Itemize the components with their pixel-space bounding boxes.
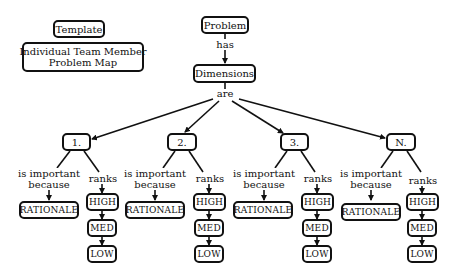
ranks-label: ranks — [196, 173, 224, 184]
problem-node: Problem — [201, 16, 249, 34]
because-line2: because — [233, 179, 295, 190]
template-box: Template — [53, 20, 105, 38]
dimension-node-1: 1. — [62, 133, 91, 151]
are-link-label: are — [217, 88, 234, 99]
dimension-node-n: N. — [386, 133, 416, 151]
because-line1: is important — [18, 168, 80, 179]
important-because-label: is important because — [340, 168, 402, 190]
important-because-label: is important because — [124, 168, 186, 190]
because-line1: is important — [233, 168, 295, 179]
dimensions-node: Dimensions — [193, 64, 256, 83]
low-label: LOW — [197, 249, 220, 260]
rationale-label: RATIONALE — [126, 205, 184, 216]
dimension-node-3: 3. — [280, 133, 309, 151]
low-node: LOW — [87, 245, 117, 263]
high-label: HIGH — [304, 197, 331, 208]
high-node: HIGH — [193, 193, 226, 211]
rationale-node: RATIONALE — [233, 201, 293, 219]
high-node: HIGH — [301, 193, 334, 211]
high-node: HIGH — [406, 193, 439, 211]
dimension-label: N. — [395, 137, 406, 148]
concept-map: Template Individual Team Member Problem … — [0, 0, 456, 276]
dimension-label: 3. — [290, 137, 300, 148]
med-node: MED — [302, 219, 332, 237]
low-label: LOW — [410, 249, 433, 260]
rationale-node: RATIONALE — [341, 203, 401, 221]
high-label: HIGH — [196, 197, 223, 208]
because-line1: is important — [124, 168, 186, 179]
med-node: MED — [407, 219, 437, 237]
map-title-box: Individual Team Member Problem Map — [22, 42, 144, 72]
med-label: MED — [410, 223, 434, 234]
rationale-label: RATIONALE — [234, 205, 292, 216]
dimensions-label: Dimensions — [195, 68, 254, 79]
problem-label: Problem — [204, 20, 247, 31]
med-label: MED — [197, 223, 221, 234]
low-node: LOW — [407, 245, 437, 263]
dimension-label: 1. — [72, 137, 82, 148]
med-label: MED — [90, 223, 114, 234]
ranks-label: ranks — [89, 173, 117, 184]
rationale-node: RATIONALE — [19, 201, 79, 219]
med-label: MED — [305, 223, 329, 234]
high-label: HIGH — [409, 197, 436, 208]
high-label: HIGH — [89, 197, 116, 208]
low-node: LOW — [302, 245, 332, 263]
rationale-label: RATIONALE — [342, 207, 400, 218]
because-line2: because — [18, 179, 80, 190]
rationale-node: RATIONALE — [125, 201, 185, 219]
low-label: LOW — [305, 249, 328, 260]
because-line2: because — [124, 179, 186, 190]
has-link-label: has — [216, 39, 234, 50]
ranks-label: ranks — [409, 175, 437, 186]
because-line2: because — [340, 179, 402, 190]
important-because-label: is important because — [233, 168, 295, 190]
dimension-label: 2. — [177, 137, 187, 148]
low-label: LOW — [90, 249, 113, 260]
dimension-node-2: 2. — [167, 133, 197, 151]
med-node: MED — [194, 219, 224, 237]
map-title-line1: Individual Team Member — [19, 46, 146, 57]
high-node: HIGH — [86, 193, 119, 211]
map-title-line2: Problem Map — [49, 57, 117, 68]
low-node: LOW — [194, 245, 224, 263]
template-label: Template — [56, 24, 103, 35]
because-line1: is important — [340, 168, 402, 179]
important-because-label: is important because — [18, 168, 80, 190]
ranks-label: ranks — [304, 173, 332, 184]
med-node: MED — [87, 219, 117, 237]
rationale-label: RATIONALE — [20, 205, 78, 216]
